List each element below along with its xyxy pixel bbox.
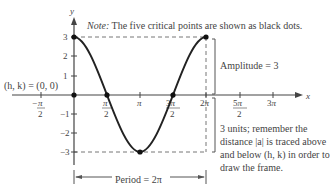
svg-text:3: 3 bbox=[63, 32, 68, 42]
svg-text:π: π bbox=[38, 98, 43, 108]
svg-text:5π: 5π bbox=[233, 98, 243, 108]
svg-text:π: π bbox=[103, 98, 108, 108]
period-right-arrow-icon bbox=[198, 175, 205, 179]
svg-text:2π: 2π bbox=[200, 98, 210, 108]
svg-text:2: 2 bbox=[104, 109, 109, 119]
svg-text:x: x bbox=[305, 91, 310, 101]
svg-text:2: 2 bbox=[63, 51, 68, 61]
svg-text:2: 2 bbox=[38, 109, 43, 119]
svg-text:−1: −1 bbox=[60, 109, 70, 119]
svg-text:−2: −2 bbox=[60, 128, 70, 138]
svg-text:2: 2 bbox=[170, 109, 175, 119]
svg-text:π: π bbox=[137, 98, 142, 108]
period-left-arrow-icon bbox=[75, 175, 82, 179]
svg-text:−3: −3 bbox=[60, 147, 70, 157]
svg-text:3π: 3π bbox=[267, 98, 277, 108]
svg-text:1: 1 bbox=[63, 71, 68, 81]
svg-text:2: 2 bbox=[237, 109, 242, 119]
center-label: (h, k) = (0, 0) bbox=[4, 80, 58, 91]
period-label: Period = 2π bbox=[114, 174, 163, 185]
x-axis-arrow-icon bbox=[295, 92, 303, 98]
amplitude-label: Amplitude = 3 bbox=[220, 60, 278, 71]
svg-text:−: − bbox=[32, 98, 37, 108]
note-annotation: Note: The five critical points are shown… bbox=[87, 20, 302, 31]
svg-text:y: y bbox=[69, 6, 74, 16]
y-axis-arrow-icon bbox=[71, 17, 77, 25]
units-annotation: 3 units; remember the distance |a| is tr… bbox=[220, 122, 335, 174]
